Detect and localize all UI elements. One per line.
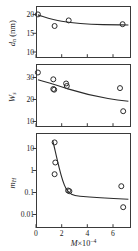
xtick-2: 2	[54, 229, 70, 238]
xtick-6: 6	[105, 229, 121, 238]
panel-mh-yaxis-ticks	[33, 149, 37, 215]
panel-mh-graphics	[0, 0, 138, 251]
data-point	[52, 172, 57, 177]
xaxis-label-exponent: −4	[90, 238, 96, 244]
data-point	[53, 160, 58, 165]
panel-mh-fit-curve	[53, 141, 129, 200]
xtick-0: 0	[28, 229, 44, 238]
panel-mh-data-points	[52, 140, 126, 210]
xtick-4: 4	[79, 229, 95, 238]
xaxis-label: M×10−4	[36, 238, 131, 248]
data-point	[119, 184, 124, 189]
figure-three-panel-plot: dn (nm) 20 15 10 Ws 30 20 10	[0, 0, 138, 251]
panel-mh-xaxis-ticks	[36, 224, 113, 228]
data-point	[121, 205, 126, 210]
xaxis-label-times: ×10	[77, 239, 90, 248]
